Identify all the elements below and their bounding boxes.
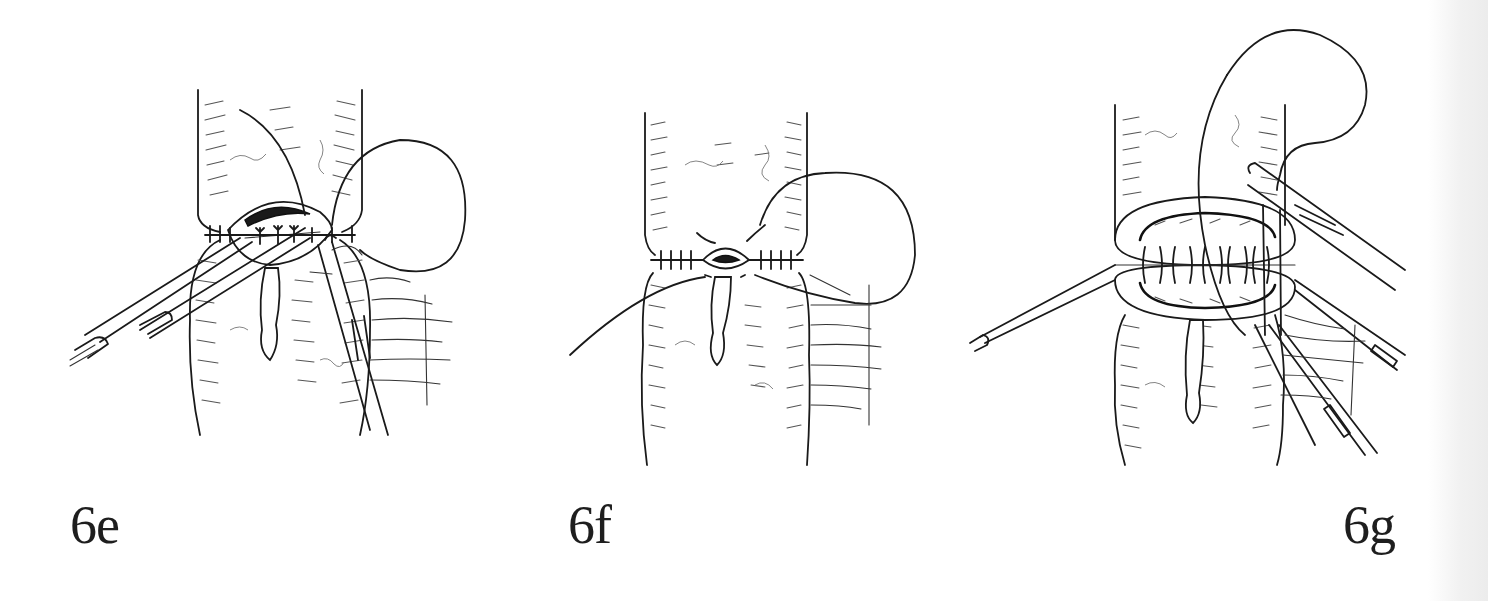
- figure-label-6e: 6e: [70, 498, 119, 552]
- page-gutter-shadow: [1428, 0, 1488, 601]
- figure-6e-illustration: [70, 80, 490, 450]
- document-page: 6e: [0, 0, 1488, 601]
- figure-6g-illustration: [965, 25, 1425, 475]
- figure-label-6g: 6g: [1343, 498, 1395, 552]
- figure-6f-illustration: [565, 105, 925, 475]
- figure-label-6f: 6f: [568, 498, 611, 552]
